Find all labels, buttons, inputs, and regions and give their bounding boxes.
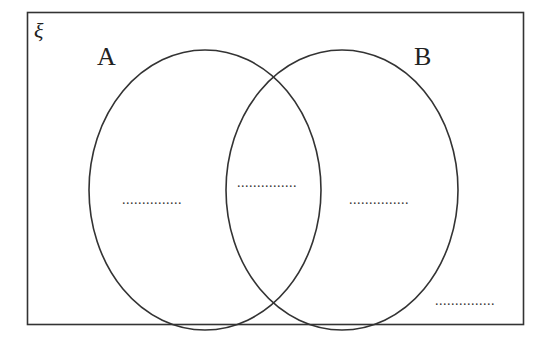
venn-diagram: [0, 0, 549, 339]
region-a-and-b-blank[interactable]: ...............: [237, 176, 297, 190]
set-a-circle: [89, 50, 321, 330]
set-b-circle: [226, 50, 458, 330]
set-a-label: A: [97, 42, 116, 72]
set-b-label: B: [414, 42, 431, 72]
region-outside-blank[interactable]: ...............: [435, 294, 495, 308]
region-b-only-blank[interactable]: ...............: [349, 193, 409, 207]
universal-set-symbol: ξ: [34, 18, 43, 44]
region-a-only-blank[interactable]: ...............: [122, 193, 182, 207]
